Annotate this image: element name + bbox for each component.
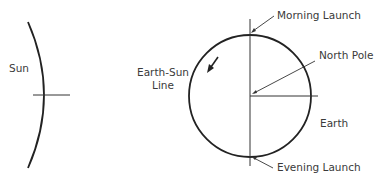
morning-launch-label: Morning Launch: [277, 9, 361, 22]
north-pole-label: North Pole: [319, 49, 373, 62]
morning-launch-leader: [251, 16, 274, 33]
sun-label: Sun: [9, 62, 29, 75]
rotation-arrow-icon: [207, 57, 218, 73]
evening-launch-leader: [252, 157, 273, 168]
evening-launch-label: Evening Launch: [277, 161, 361, 174]
earth-sun-line-label: Earth-Sun Line: [134, 66, 192, 92]
earth-sun-line-label-line1: Earth-Sun: [134, 66, 192, 79]
north-pole-leader: [252, 61, 315, 94]
earth-sun-line-label-line2: Line: [134, 79, 192, 92]
earth-label: Earth: [320, 117, 348, 130]
